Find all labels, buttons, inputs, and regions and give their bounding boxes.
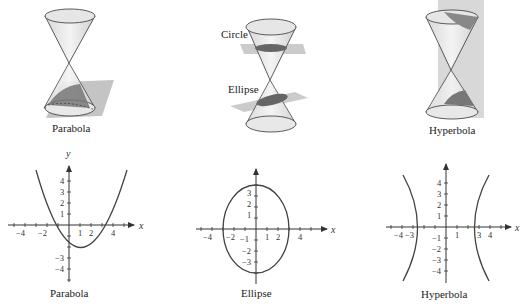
tick: −4: [203, 232, 213, 242]
tick: −2: [432, 244, 441, 254]
tick: −3: [242, 257, 251, 267]
parabola-graph: [8, 166, 134, 282]
tick: 2: [89, 228, 93, 238]
ellipse-graph: [196, 169, 327, 284]
tick: −1: [240, 234, 249, 244]
tick: 3: [437, 189, 441, 199]
tick: 2: [437, 200, 441, 210]
hyperbola-graph: [386, 164, 511, 283]
hyperbola-cone-illustration: [426, 0, 484, 119]
parabola-y-label: y: [65, 148, 71, 159]
tick: −1: [432, 233, 441, 243]
tick: 1: [265, 232, 269, 242]
tick: 2: [276, 232, 280, 242]
ellipse-x-label: x: [330, 224, 336, 235]
tick: −3: [432, 255, 441, 265]
tick: 4: [111, 228, 116, 238]
tick: 1: [78, 228, 82, 238]
tick: −2: [38, 228, 47, 238]
tick: 3: [60, 187, 64, 197]
tick: −3: [405, 230, 414, 240]
tick: 2: [60, 198, 64, 208]
tick: 4: [60, 176, 65, 186]
tick: 4: [298, 232, 303, 242]
tick: −2: [226, 232, 235, 242]
tick: −3: [55, 253, 64, 263]
tick: −4: [432, 266, 442, 276]
hyperbola-graph-caption: Hyperbola: [421, 288, 468, 300]
parabola-cone-illustration: [44, 9, 114, 118]
tick: −2: [242, 246, 251, 256]
tick: 4: [437, 178, 442, 188]
tick: 1: [437, 211, 441, 221]
hyperbola-x-label: x: [514, 222, 520, 233]
parabola-graph-caption: Parabola: [50, 287, 89, 299]
tick: 2: [247, 199, 251, 209]
tick: 1: [455, 230, 459, 240]
parabola-cone-caption: Parabola: [52, 122, 91, 134]
tick: −4: [16, 228, 26, 238]
tick: 3: [247, 188, 251, 198]
tick: 4: [488, 230, 493, 240]
tick: 1: [247, 210, 251, 220]
parabola-x-label: x: [138, 220, 144, 231]
tick: −4: [394, 230, 404, 240]
hyperbola-cone-caption: Hyperbola: [429, 124, 476, 136]
circle-label: Circle: [221, 28, 248, 40]
ellipse-graph-caption: Ellipse: [241, 287, 272, 299]
tick: −4: [55, 264, 65, 274]
ellipse-cone-label: Ellipse: [228, 83, 259, 95]
tick: 3: [477, 230, 481, 240]
tick: 1: [60, 209, 64, 219]
